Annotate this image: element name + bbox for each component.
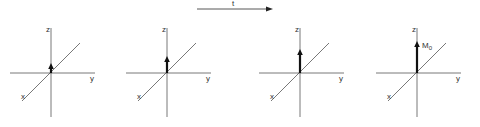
z-axis-label: z: [162, 25, 166, 34]
frame-panel-3: zyx: [259, 25, 344, 117]
z-axis-label: z: [295, 25, 299, 34]
magnetization-diagram: t zyxzyxzyxzyxM0: [0, 0, 480, 127]
time-label: t: [232, 0, 235, 8]
y-axis-label: y: [206, 74, 210, 83]
y-axis-label: y: [339, 74, 343, 83]
z-axis-label: z: [412, 25, 416, 34]
time-arrow: t: [197, 0, 273, 12]
y-axis-label: y: [456, 74, 460, 83]
frame-panel-1: zyx: [10, 25, 95, 117]
vector-arrowhead-icon: [297, 49, 303, 55]
vector-arrowhead-icon: [48, 63, 54, 69]
z-axis-label: z: [46, 25, 50, 34]
frame-panel-4: zyxM0: [376, 25, 461, 117]
frame-panel-2: zyx: [126, 25, 211, 117]
y-axis-label: y: [90, 74, 94, 83]
vector-arrowhead-icon: [414, 41, 420, 47]
x-axis-label: x: [387, 92, 391, 101]
x-axis-label: x: [137, 92, 141, 101]
vector-label: M0: [422, 41, 433, 51]
x-axis-label: x: [21, 92, 25, 101]
x-axis-label: x: [270, 92, 274, 101]
vector-arrowhead-icon: [164, 56, 170, 62]
